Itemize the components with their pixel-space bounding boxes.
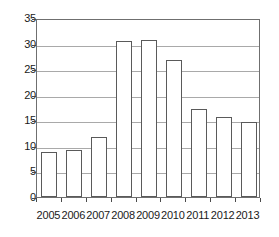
plot-area bbox=[36, 19, 260, 198]
bar-2006 bbox=[66, 150, 82, 197]
x-axis: 200520062007200820092010201120122013 bbox=[36, 198, 260, 237]
x-tick-mark bbox=[160, 198, 161, 202]
x-tick-mark bbox=[136, 198, 137, 202]
x-tick-label: 2011 bbox=[185, 209, 210, 221]
bar-2007 bbox=[91, 137, 107, 197]
bar-2009 bbox=[141, 40, 157, 197]
x-tick-label: 2012 bbox=[210, 209, 235, 221]
x-tick-mark bbox=[111, 198, 112, 202]
bar-2005 bbox=[41, 152, 57, 197]
x-tick-label: 2005 bbox=[36, 209, 61, 221]
x-tick-label: 2009 bbox=[136, 209, 161, 221]
bar-2013 bbox=[241, 122, 257, 197]
x-tick-label: 2010 bbox=[160, 209, 185, 221]
x-tick-mark bbox=[235, 198, 236, 202]
bar-chart: 05101520253035 2005200620072008200920102… bbox=[0, 0, 279, 237]
x-tick-mark bbox=[185, 198, 186, 202]
x-tick-label: 2008 bbox=[111, 209, 136, 221]
bar-2011 bbox=[191, 109, 207, 197]
x-tick-mark bbox=[36, 198, 37, 202]
bar-2012 bbox=[216, 117, 232, 197]
x-tick-mark bbox=[210, 198, 211, 202]
bar-2008 bbox=[116, 41, 132, 197]
x-tick-label: 2007 bbox=[86, 209, 111, 221]
x-tick-mark bbox=[61, 198, 62, 202]
x-tick-label: 2013 bbox=[235, 209, 260, 221]
y-axis: 05101520253035 bbox=[0, 0, 36, 237]
x-tick-label: 2006 bbox=[61, 209, 86, 221]
x-tick-mark bbox=[86, 198, 87, 202]
bar-2010 bbox=[166, 60, 182, 197]
x-tick-mark bbox=[260, 198, 261, 202]
